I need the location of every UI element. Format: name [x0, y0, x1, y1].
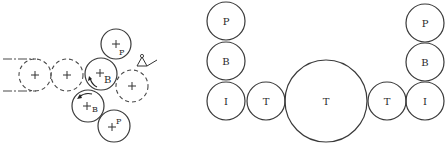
pass-circle-2 — [51, 59, 83, 91]
upper-work-roll: B — [85, 58, 117, 90]
roll-diagram-canvas: B P B — [0, 0, 445, 150]
arrowhead-icon — [77, 94, 82, 99]
label-P-upper: P — [119, 48, 125, 57]
label-I: I — [224, 96, 228, 107]
right-column-B: B — [406, 43, 444, 81]
label-T: T — [263, 96, 270, 107]
guide-hook-icon — [137, 54, 157, 66]
label-I: I — [423, 96, 427, 107]
label-T: T — [323, 96, 330, 107]
label-P: P — [422, 18, 429, 29]
label-B: B — [421, 57, 428, 68]
lower-backup-roll: P — [98, 110, 130, 142]
upper-backup-roll: P — [101, 29, 131, 59]
right-diagram: P B I T T T I B — [207, 2, 444, 142]
left-column-B: B — [207, 42, 245, 80]
right-column-P: P — [406, 4, 444, 42]
label-B: B — [222, 56, 229, 67]
label-P-lower: P — [116, 117, 122, 126]
label-B-upper: B — [104, 74, 111, 85]
left-small-T: T — [247, 82, 285, 120]
label-T: T — [384, 96, 391, 107]
arrowhead-icon — [88, 76, 92, 81]
exit-pass-circle — [116, 70, 148, 102]
right-small-T: T — [368, 82, 406, 120]
label-P: P — [223, 16, 230, 27]
right-column-I: I — [406, 82, 444, 120]
left-column-I: I — [207, 82, 245, 120]
lower-work-roll: B — [72, 90, 104, 122]
left-column-P: P — [207, 2, 245, 40]
left-diagram: B P B — [3, 29, 157, 142]
label-B-lower: B — [92, 105, 98, 114]
center-large-T: T — [285, 60, 367, 142]
pass-circle-1 — [19, 59, 51, 91]
